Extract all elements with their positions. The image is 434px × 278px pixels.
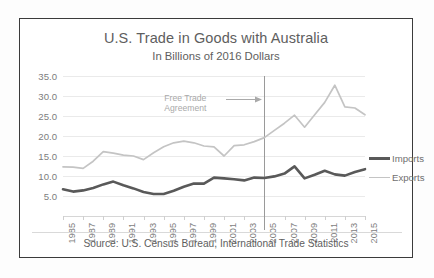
- x-axis-tick: [204, 216, 205, 220]
- x-axis-tick: [103, 216, 104, 220]
- legend-swatch-exports: [369, 177, 390, 179]
- legend-label-imports: Imports: [390, 153, 424, 164]
- x-axis-tick: [224, 216, 225, 220]
- x-axis-tick: [285, 216, 286, 220]
- plot-area: 5.010.015.020.025.030.035.0 198519871989…: [63, 76, 365, 216]
- x-axis-tick: [184, 216, 185, 220]
- legend-item-imports[interactable]: Imports: [369, 149, 431, 168]
- y-axis-tick-label: 20.0: [38, 131, 57, 142]
- x-axis-tick: [244, 216, 245, 220]
- y-axis-tick-label: 10.0: [38, 171, 57, 182]
- legend-item-exports[interactable]: Exports: [369, 168, 431, 187]
- y-axis-tick-label: 30.0: [38, 91, 57, 102]
- y-axis-tick-label: 35.0: [38, 71, 57, 82]
- x-axis-line: [63, 216, 365, 217]
- y-axis-tick-label: 15.0: [38, 151, 57, 162]
- data-lines: [63, 76, 365, 216]
- chart-screenshot: U.S. Trade in Goods with Australia In Bi…: [0, 0, 434, 278]
- footer-divider: [32, 232, 402, 233]
- x-axis-tick: [325, 216, 326, 220]
- legend: Imports Exports: [369, 149, 431, 187]
- x-axis-tick: [144, 216, 145, 220]
- x-axis-tick: [365, 216, 366, 220]
- legend-swatch-imports: [369, 157, 390, 160]
- source-note: Source: U.S. Census Bureau, Internationa…: [20, 238, 412, 249]
- x-axis-tick: [83, 216, 84, 220]
- x-axis-tick: [123, 216, 124, 220]
- chart-card: U.S. Trade in Goods with Australia In Bi…: [19, 18, 413, 258]
- x-axis-tick: [164, 216, 165, 220]
- x-axis-tick: [305, 216, 306, 220]
- chart-title: U.S. Trade in Goods with Australia: [20, 30, 412, 46]
- y-axis-tick-label: 5.0: [44, 191, 57, 202]
- x-axis-tick: [345, 216, 346, 220]
- y-axis-tick-label: 25.0: [38, 111, 57, 122]
- legend-label-exports: Exports: [390, 172, 425, 183]
- x-axis-tick: [63, 216, 64, 220]
- chart-subtitle: In Billions of 2016 Dollars: [20, 50, 412, 62]
